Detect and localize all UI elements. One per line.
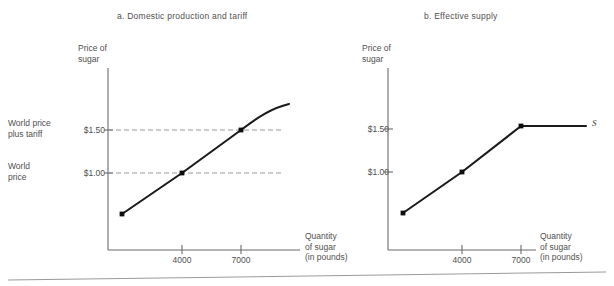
panel-a-marker-7000 (239, 128, 244, 133)
figure-root: a. Domestic production and tariff b. Eff… (0, 0, 614, 286)
panel-a-marker-origin-point (120, 212, 125, 217)
panel-b-marker-7000 (519, 124, 524, 129)
panel-a-plot (104, 68, 300, 254)
panel-b-marker-origin-point (401, 211, 406, 216)
panel-a-marker-4000 (180, 171, 185, 176)
panel-b-marker-4000 (460, 170, 465, 175)
panel-a-supply-curve (122, 104, 289, 214)
panel-b-plot (384, 68, 586, 254)
plot-layer (0, 0, 614, 286)
panel-b-supply-curve (403, 126, 586, 213)
bottom-divider-rule (8, 272, 606, 280)
